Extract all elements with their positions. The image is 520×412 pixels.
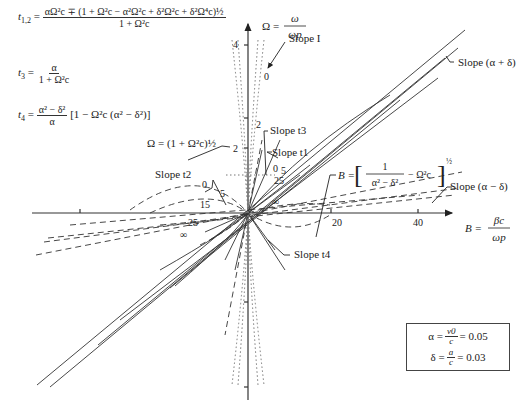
- parameter-box: α = v0 c = 0.05 δ = a c = 0.03: [406, 323, 510, 371]
- label-slope-alpha-minus-delta: Slope (α − δ): [450, 180, 508, 193]
- x-tick-20: 20: [332, 217, 342, 228]
- y-tick-2-upper: 2: [256, 119, 261, 130]
- x-axis-label-num: βc: [493, 214, 504, 226]
- b-formula-den: α² − δ²: [372, 177, 399, 188]
- curve-label-upper-25: 25: [274, 175, 284, 186]
- delta-fraction: a c: [447, 348, 456, 367]
- curve-label-left-15: 15: [200, 199, 210, 210]
- label-slope-t4: Slope t4: [294, 248, 331, 260]
- curve-label-upper-0-b: 0: [273, 163, 278, 174]
- delta-value: = 0.03: [457, 352, 485, 363]
- b-formula-bracket-close: ]: [437, 160, 446, 189]
- b-formula-bracket-open: [: [354, 160, 363, 189]
- delta-lhs: δ =: [431, 352, 445, 363]
- label-slope-t1: Slope t1: [272, 146, 308, 158]
- alpha-value: = 0.05: [460, 331, 488, 342]
- dashed-slope-lines: [36, 140, 462, 335]
- y-axis-label-num: ω: [291, 12, 299, 24]
- curve-label-left-25: 25: [188, 217, 198, 228]
- curve-label-upper-0-a: 0: [264, 71, 269, 82]
- x-axis-label-lhs: B =: [465, 222, 482, 234]
- y-tick-4: 4: [233, 39, 238, 50]
- alpha-row: α = v0 c = 0.05: [428, 327, 487, 346]
- curve-label-left-inf: ∞: [180, 229, 187, 240]
- delta-row: δ = a c = 0.03: [431, 348, 486, 367]
- label-slope-alpha-plus-delta: Slope (α + δ): [458, 56, 516, 69]
- y-tick-2-lower: 2: [233, 143, 238, 154]
- alpha-fraction: v0 c: [445, 327, 458, 346]
- b-formula-exp: ½: [446, 157, 452, 166]
- x-axis-label-den: ωp: [492, 231, 506, 243]
- curve-label-left-0: 0: [202, 179, 207, 190]
- alpha-den: c: [447, 337, 455, 346]
- alpha-lhs: α =: [428, 331, 443, 342]
- label-omega-cutoff: Ω = (1 + Ω²c)½: [147, 137, 216, 150]
- b-formula-num: 1: [383, 161, 388, 172]
- curve-label-left-5: 5: [220, 188, 225, 199]
- label-slope-I: Slope I: [289, 32, 321, 44]
- b-formula-lhs: B =: [338, 169, 355, 181]
- label-slope-t2: Slope t2: [155, 168, 191, 180]
- delta-den: c: [447, 358, 455, 367]
- x-tick-40: 40: [413, 217, 423, 228]
- axes: [32, 24, 452, 400]
- curve-label-upper-inf: ∞: [272, 196, 279, 207]
- b-formula-tail: − Ω²c: [408, 169, 432, 180]
- solid-slope-lines: [37, 30, 465, 387]
- label-slope-t3: Slope t3: [270, 124, 307, 136]
- y-axis-label-lhs: Ω =: [262, 20, 279, 32]
